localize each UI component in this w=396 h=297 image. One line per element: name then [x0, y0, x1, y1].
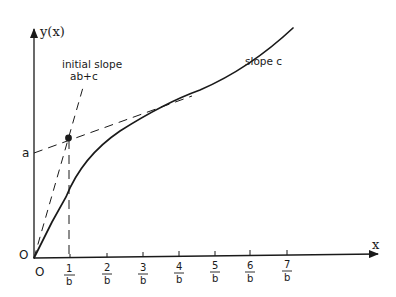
- svg-text:b: b: [284, 272, 290, 283]
- initial-slope-value: ab+c: [70, 70, 98, 82]
- svg-text:b: b: [140, 275, 146, 286]
- tick-label-6-over-b: 6 b: [245, 260, 255, 284]
- origin-label-x: O: [35, 265, 44, 279]
- tick-label-5-over-b: 5 b: [210, 260, 220, 284]
- tick-label-4-over-b: 4 b: [174, 261, 184, 285]
- tick-label-3-over-b: 3 b: [138, 262, 148, 286]
- svg-text:b: b: [104, 275, 110, 286]
- svg-text:b: b: [66, 276, 72, 287]
- svg-text:b: b: [212, 273, 218, 284]
- initial-slope-label: initial slope: [62, 58, 122, 70]
- tick-label-7-over-b: 7 b: [282, 259, 292, 283]
- origin-label-y: O: [19, 248, 28, 262]
- tick-label-1-over-b: 1 b: [64, 263, 75, 287]
- tick-label-2-over-b: 2 b: [102, 262, 112, 286]
- intercept-label-a: a: [22, 146, 29, 160]
- svg-text:1: 1: [66, 263, 72, 274]
- intersection-point: [65, 135, 72, 142]
- x-axis: [34, 254, 378, 258]
- y-axis-label: y(x): [39, 24, 65, 39]
- svg-text:b: b: [247, 273, 253, 284]
- svg-text:b: b: [176, 274, 182, 285]
- x-tick-labels: 1 b 2 b 3 b 4 b 5 b 6 b 7: [64, 259, 292, 287]
- svg-text:4: 4: [176, 261, 182, 272]
- svg-text:6: 6: [247, 260, 253, 271]
- svg-text:2: 2: [104, 262, 110, 273]
- x-axis-label: x: [372, 237, 380, 252]
- svg-text:3: 3: [140, 262, 146, 273]
- svg-text:7: 7: [284, 259, 290, 270]
- diagram-canvas: y(x) x O O a 1 b 2 b 3 b 4: [0, 0, 396, 297]
- svg-text:5: 5: [212, 260, 218, 271]
- initial-slope-dashed-line: [34, 84, 84, 258]
- asymptote-slope-label: slope c: [245, 55, 282, 67]
